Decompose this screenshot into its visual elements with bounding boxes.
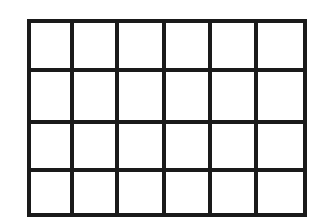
grid-diagram — [0, 0, 330, 223]
